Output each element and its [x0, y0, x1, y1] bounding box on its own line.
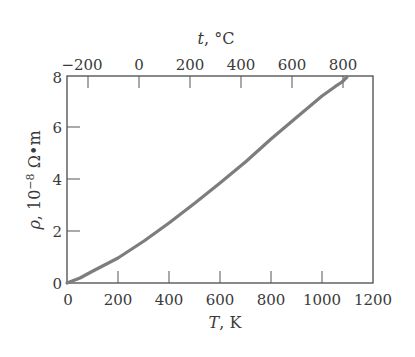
- x2-axis-title-unit: , °C: [204, 29, 234, 48]
- x-tick-label: 400: [155, 291, 184, 309]
- x2-tick-label: −200: [61, 56, 102, 74]
- y-axis-title-var: ρ: [25, 220, 44, 231]
- y-axis-title-exponent: −8: [24, 173, 37, 189]
- resistivity-chart: 0 200 400 600 800 1000 1200 −200 0 200 4…: [0, 0, 415, 357]
- x2-tick-label: 600: [278, 56, 307, 74]
- resistivity-curve: [67, 77, 347, 283]
- x2-tick-labels: −200 0 200 400 600 800: [61, 56, 357, 74]
- y-tick-label: 8: [52, 69, 62, 87]
- y-axis-ticks: [67, 127, 80, 231]
- x-tick-label: 600: [206, 291, 235, 309]
- x2-tick-label: 0: [134, 56, 144, 74]
- x-axis-ticks: [118, 271, 322, 283]
- x-tick-label: 1000: [303, 291, 341, 309]
- y-tick-label: 2: [52, 223, 62, 241]
- x-tick-label: 1200: [354, 291, 392, 309]
- y-tick-label: 0: [52, 275, 62, 293]
- x2-axis-title: t, °C: [198, 29, 235, 48]
- x2-tick-label: 400: [227, 56, 256, 74]
- x2-axis-ticks: [88, 76, 343, 88]
- plot-frame: [67, 76, 373, 283]
- x2-tick-label: 800: [329, 56, 358, 74]
- x-tick-label: 200: [104, 291, 133, 309]
- x-tick-label: 0: [63, 291, 73, 309]
- y-axis-title-tail: Ω•m: [25, 130, 44, 173]
- x2-tick-label: 200: [176, 56, 205, 74]
- x-tick-label: 800: [257, 291, 286, 309]
- x-tick-labels: 0 200 400 600 800 1000 1200: [63, 291, 392, 309]
- y-tick-labels: 0 2 4 6 8: [52, 69, 62, 293]
- y-tick-label: 4: [52, 171, 62, 189]
- y-axis-title-unit: , 10: [25, 190, 44, 221]
- y-tick-label: 6: [52, 119, 62, 137]
- y-axis-title: ρ, 10−8 Ω•m: [24, 130, 44, 230]
- x-axis-title-unit: , K: [219, 313, 242, 332]
- x-axis-title: T, K: [209, 313, 243, 332]
